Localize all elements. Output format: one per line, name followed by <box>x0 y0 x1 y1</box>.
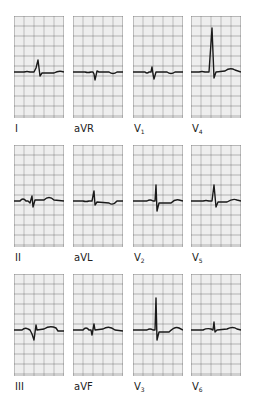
ecg-grid <box>14 16 64 118</box>
lead-label-v1: V1 <box>134 124 145 137</box>
lead-label-iii: III <box>15 382 24 392</box>
lead-v1-panel <box>133 16 183 118</box>
lead-label-avr: aVR <box>74 124 94 134</box>
ecg-grid <box>133 145 183 247</box>
ecg-grid <box>14 145 64 247</box>
ecg-grid <box>14 274 64 376</box>
lead-label-v4: V4 <box>192 124 203 137</box>
lead-avl-panel <box>73 145 123 247</box>
ecg-grid <box>133 16 183 118</box>
lead-label-v6: V6 <box>192 382 203 395</box>
lead-v6-panel <box>191 274 241 376</box>
lead-label-v2: V2 <box>134 253 145 266</box>
ecg-grid <box>191 274 241 376</box>
lead-v5-panel <box>191 145 241 247</box>
lead-ii-panel <box>14 145 64 247</box>
ecg-grid <box>191 145 241 247</box>
lead-v3-panel <box>133 274 183 376</box>
ecg-grid <box>73 274 123 376</box>
lead-avf-panel <box>73 274 123 376</box>
lead-label-i: I <box>15 124 18 134</box>
ecg-grid <box>73 16 123 118</box>
lead-v4-panel <box>191 16 241 118</box>
ecg-grid <box>73 145 123 247</box>
lead-label-avl: aVL <box>74 253 93 263</box>
lead-label-v5: V5 <box>192 253 203 266</box>
ecg-grid <box>191 16 241 118</box>
ecg-grid <box>133 274 183 376</box>
lead-label-v3: V3 <box>134 382 145 395</box>
lead-i-panel <box>14 16 64 118</box>
lead-v2-panel <box>133 145 183 247</box>
lead-iii-panel <box>14 274 64 376</box>
lead-avr-panel <box>73 16 123 118</box>
lead-label-ii: II <box>15 253 21 263</box>
lead-label-avf: aVF <box>74 382 93 392</box>
